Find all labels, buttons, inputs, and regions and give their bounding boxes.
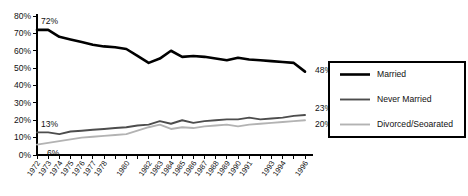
start-value-label: 13%: [41, 119, 58, 129]
y-tick-label: 50%: [14, 63, 31, 73]
x-tick-label: 1980: [114, 159, 131, 178]
legend-label-married: Married: [377, 69, 406, 79]
chart-legend: MarriedNever MarriedDivorced/Seoarated: [329, 62, 465, 137]
y-tick-label: 80%: [14, 11, 31, 21]
chart-container: 0%10%20%30%40%50%60%70%80% 1972197319741…: [0, 0, 468, 196]
y-tick-label: 40%: [14, 80, 31, 90]
start-value-label: 72%: [41, 16, 58, 26]
y-axis: 0%10%20%30%40%50%60%70%80%: [14, 11, 37, 160]
x-tick-label: 1996: [293, 159, 310, 178]
y-tick-label: 20%: [14, 115, 31, 125]
series-line-never-married: [37, 115, 305, 134]
y-tick-label: 70%: [14, 28, 31, 38]
series-line-married: [37, 30, 305, 72]
legend-label-divorced-seoarated: Divorced/Seoarated: [377, 119, 453, 129]
line-chart: 0%10%20%30%40%50%60%70%80% 1972197319741…: [0, 0, 468, 196]
y-tick-label: 10%: [14, 132, 31, 142]
y-tick-label: 30%: [14, 98, 31, 108]
y-tick-label: 0%: [19, 150, 32, 160]
x-axis: 1972197319741975197619771978198019821983…: [25, 155, 313, 178]
y-tick-label: 60%: [14, 46, 31, 56]
endpoint-annotations: 72%48%13%23%6%20%: [41, 16, 332, 158]
legend-label-never-married: Never Married: [377, 94, 432, 104]
start-value-label: 6%: [47, 148, 60, 158]
data-series-group: [37, 30, 305, 145]
